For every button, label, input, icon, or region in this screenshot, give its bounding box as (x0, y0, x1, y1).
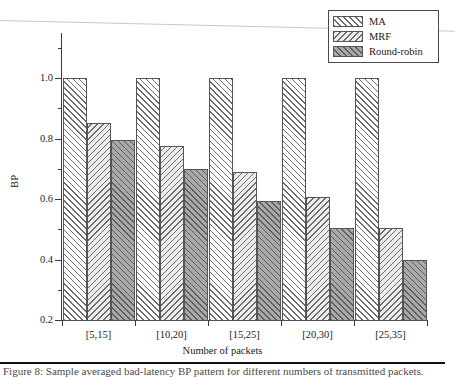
legend-swatch-icon (333, 46, 363, 57)
bar-ma-1 (136, 78, 160, 321)
x-category-label-4: [25,35] (351, 329, 431, 340)
bar-round-robin-3 (330, 228, 354, 321)
figure-caption-clipped: Figure 8: Sample averaged bad-latency BP… (0, 368, 445, 378)
y-tick-label: 0.8 (19, 134, 53, 144)
legend-item-ma[interactable]: MA (333, 14, 434, 28)
legend-swatch-icon (333, 31, 363, 42)
legend-swatch-icon (333, 16, 363, 27)
x-tick (62, 321, 63, 326)
legend-item-mrf[interactable]: MRF (333, 29, 434, 43)
bar-mrf-2 (233, 172, 257, 321)
bar-ma-3 (282, 78, 306, 321)
y-tick-major (55, 320, 62, 321)
legend-label: Round-robin (369, 46, 423, 57)
y-axis-title: BP (9, 175, 20, 188)
plot-area (62, 33, 427, 320)
x-axis-title: Number of packets (0, 345, 445, 356)
bar-ma-2 (209, 78, 233, 321)
bar-round-robin-2 (257, 201, 281, 321)
bar-mrf-4 (379, 228, 403, 321)
y-tick-label: 0.2 (19, 315, 53, 325)
x-tick (281, 321, 282, 326)
y-tick-major (55, 139, 62, 140)
bar-mrf-3 (306, 197, 330, 321)
bar-round-robin-1 (184, 169, 208, 321)
bar-ma-0 (63, 78, 87, 321)
bar-mrf-1 (160, 146, 184, 321)
y-tick-label: 0.6 (19, 194, 53, 204)
x-tick (208, 321, 209, 326)
y-tick-label: 1.0 (19, 73, 53, 83)
bar-round-robin-4 (403, 260, 427, 322)
bar-ma-4 (355, 78, 379, 321)
x-category-label-3: [20,30] (278, 329, 358, 340)
page-horizontal-rule (0, 362, 445, 364)
x-tick (354, 321, 355, 326)
figure-caption-text: Figure 8: Sample averaged bad-latency BP… (3, 368, 424, 377)
bar-chart-figure: 0.20.40.60.81.0 BP [5,15][10,20][15,25][… (0, 0, 445, 345)
bar-round-robin-0 (111, 140, 135, 321)
x-category-label-2: [15,25] (205, 329, 285, 340)
bar-mrf-0 (87, 123, 111, 321)
y-tick-major (55, 199, 62, 200)
x-category-label-0: [5,15] (59, 329, 139, 340)
x-tick (427, 321, 428, 326)
legend-label: MA (369, 16, 386, 27)
x-tick (135, 321, 136, 326)
legend-label: MRF (369, 31, 391, 42)
y-tick-label: 0.4 (19, 255, 53, 265)
y-tick-major (55, 260, 62, 261)
legend-item-round-robin[interactable]: Round-robin (333, 44, 434, 58)
x-category-label-1: [10,20] (132, 329, 212, 340)
chart-legend: MAMRFRound-robin (328, 10, 439, 63)
y-tick-major (55, 78, 62, 79)
